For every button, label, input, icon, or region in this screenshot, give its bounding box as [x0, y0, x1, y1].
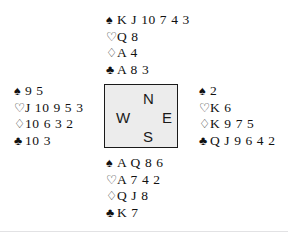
- hand-south: ♠ A Q 8 6 ♡ A 7 4 2 ♢ Q J 8 ♣ K 7: [106, 155, 164, 221]
- spade-icon: ♠: [14, 83, 25, 100]
- compass-label-east: E: [162, 110, 172, 125]
- hand-west-diamonds: 10 6 3 2: [25, 116, 74, 133]
- hand-west-diamond-line: ♢ 10 6 3 2: [14, 116, 84, 133]
- hand-south-club-line: ♣ K 7: [106, 205, 164, 222]
- heart-icon: ♡: [106, 29, 117, 46]
- heart-icon: ♡: [14, 100, 25, 117]
- compass-label-west: W: [116, 110, 130, 125]
- club-icon: ♣: [106, 205, 117, 222]
- hand-south-heart-line: ♡ A 7 4 2: [106, 172, 164, 189]
- hand-east-diamond-line: ♢ K 9 7 5: [199, 116, 275, 133]
- hand-east-hearts: K 6: [210, 100, 232, 117]
- diamond-icon: ♢: [14, 116, 25, 133]
- club-icon: ♣: [106, 62, 117, 79]
- hand-west-spade-line: ♠ 9 5: [14, 83, 84, 100]
- diamond-icon: ♢: [199, 116, 210, 133]
- hand-north-hearts: Q 8: [117, 29, 139, 46]
- hand-south-hearts: A 7 4 2: [117, 172, 161, 189]
- hand-south-spades: A Q 8 6: [117, 155, 164, 172]
- hand-north: ♠ K J 10 7 4 3 ♡ Q 8 ♢ A 4 ♣ A 8 3: [106, 12, 190, 78]
- compass-box: N W E S: [104, 84, 178, 148]
- hand-west-hearts: J 10 9 5 3: [25, 100, 84, 117]
- heart-icon: ♡: [199, 100, 210, 117]
- hand-west: ♠ 9 5 ♡ J 10 9 5 3 ♢ 10 6 3 2 ♣ 10 3: [14, 83, 84, 149]
- compass-label-south: S: [143, 129, 153, 144]
- compass-label-north: N: [143, 91, 154, 106]
- hand-south-clubs: K 7: [117, 205, 139, 222]
- hand-east: ♠ 2 ♡ K 6 ♢ K 9 7 5 ♣ Q J 9 6 4 2: [199, 83, 275, 149]
- hand-north-spade-line: ♠ K J 10 7 4 3: [106, 12, 190, 29]
- bottom-divider: [0, 231, 288, 232]
- hand-west-clubs: 10 3: [25, 133, 51, 150]
- diamond-icon: ♢: [106, 188, 117, 205]
- spade-icon: ♠: [106, 12, 117, 29]
- hand-west-spades: 9 5: [25, 83, 44, 100]
- hand-east-spade-line: ♠ 2: [199, 83, 275, 100]
- hand-south-spade-line: ♠ A Q 8 6: [106, 155, 164, 172]
- bridge-deal-diagram: ♠ K J 10 7 4 3 ♡ Q 8 ♢ A 4 ♣ A 8 3 ♠ 9 5…: [0, 0, 288, 237]
- hand-west-club-line: ♣ 10 3: [14, 133, 84, 150]
- club-icon: ♣: [199, 133, 210, 150]
- hand-east-heart-line: ♡ K 6: [199, 100, 275, 117]
- hand-east-spades: 2: [210, 83, 217, 100]
- hand-east-clubs: Q J 9 6 4 2: [210, 133, 275, 150]
- club-icon: ♣: [14, 133, 25, 150]
- hand-north-heart-line: ♡ Q 8: [106, 29, 190, 46]
- spade-icon: ♠: [106, 155, 117, 172]
- hand-east-diamonds: K 9 7 5: [210, 116, 254, 133]
- spade-icon: ♠: [199, 83, 210, 100]
- heart-icon: ♡: [106, 172, 117, 189]
- hand-north-diamonds: A 4: [117, 45, 138, 62]
- hand-north-club-line: ♣ A 8 3: [106, 62, 190, 79]
- hand-north-spades: K J 10 7 4 3: [117, 12, 190, 29]
- hand-south-diamond-line: ♢ Q J 8: [106, 188, 164, 205]
- hand-north-clubs: A 8 3: [117, 62, 149, 79]
- hand-east-club-line: ♣ Q J 9 6 4 2: [199, 133, 275, 150]
- hand-south-diamonds: Q J 8: [117, 188, 149, 205]
- diamond-icon: ♢: [106, 45, 117, 62]
- hand-north-diamond-line: ♢ A 4: [106, 45, 190, 62]
- hand-west-heart-line: ♡ J 10 9 5 3: [14, 100, 84, 117]
